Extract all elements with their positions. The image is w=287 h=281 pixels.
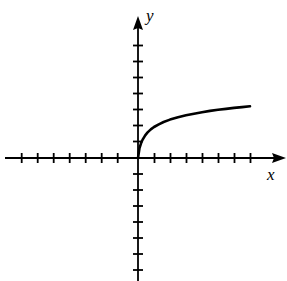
y-axis-label: y <box>146 7 154 24</box>
y-axis <box>133 16 143 281</box>
x-axis <box>5 153 286 163</box>
x-axis-arrowhead <box>272 153 286 163</box>
function-curve <box>138 106 250 158</box>
y-axis-arrowhead <box>133 16 143 30</box>
graph-figure: y x <box>0 0 287 281</box>
x-axis-label: x <box>267 166 275 183</box>
coordinate-plane-svg <box>0 0 287 281</box>
